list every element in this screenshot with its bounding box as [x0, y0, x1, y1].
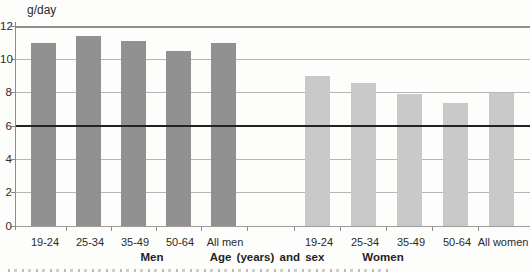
bar-men-all-men — [211, 43, 236, 226]
x-category-label: All women — [478, 236, 529, 248]
x-axis-tick — [201, 227, 202, 231]
y-tick-label: 4 — [0, 153, 12, 166]
x-axis-tick — [66, 227, 67, 231]
y-tick-label: 8 — [0, 86, 12, 99]
bar-men-25-34 — [76, 36, 101, 226]
x-axis-tick — [340, 227, 341, 231]
bar-men-19-24 — [31, 43, 56, 226]
bar-women-all-women — [489, 93, 514, 226]
x-category-label: 25-34 — [351, 236, 379, 248]
x-axis-tick — [111, 227, 112, 231]
y-tick-label: 12 — [0, 20, 12, 33]
x-category-label: 35-49 — [121, 236, 149, 248]
bar-women-50-64 — [443, 103, 468, 226]
x-category-label: 35-49 — [397, 236, 425, 248]
x-category-label: 25-34 — [76, 236, 104, 248]
x-axis-tick — [386, 227, 387, 231]
y-tick-label: 2 — [0, 186, 12, 199]
y-tick-label: 6 — [0, 120, 12, 133]
bar-chart-figure: g/day 12108642019-2425-3435-4950-64All m… — [0, 0, 530, 272]
x-category-label: 50-64 — [443, 236, 471, 248]
x-axis-tick — [156, 227, 157, 231]
bar-men-35-49 — [121, 41, 146, 226]
men-group-label: Men — [141, 251, 164, 263]
x-axis-title: Age (years) and sex — [210, 251, 325, 263]
bar-women-19-24 — [305, 76, 330, 226]
y-tick-label: 10 — [0, 53, 12, 66]
women-group-label: Women — [362, 251, 403, 263]
y-tick-label: 0 — [0, 220, 12, 233]
bar-women-35-49 — [397, 94, 422, 226]
x-axis-tick — [294, 227, 295, 231]
bar-men-50-64 — [166, 51, 191, 226]
x-axis-tick — [478, 227, 479, 231]
reference-line — [16, 125, 530, 127]
gridline-12 — [16, 26, 530, 28]
x-category-label: 50-64 — [166, 236, 194, 248]
bar-women-25-34 — [351, 83, 376, 226]
x-axis-tick — [247, 227, 248, 231]
plot-area: 12108642019-2425-3435-4950-64All men19-2… — [0, 0, 530, 272]
x-axis-tick — [432, 227, 433, 231]
x-category-label: 19-24 — [305, 236, 333, 248]
x-category-label: 19-24 — [31, 236, 59, 248]
x-category-label: All men — [207, 236, 244, 248]
